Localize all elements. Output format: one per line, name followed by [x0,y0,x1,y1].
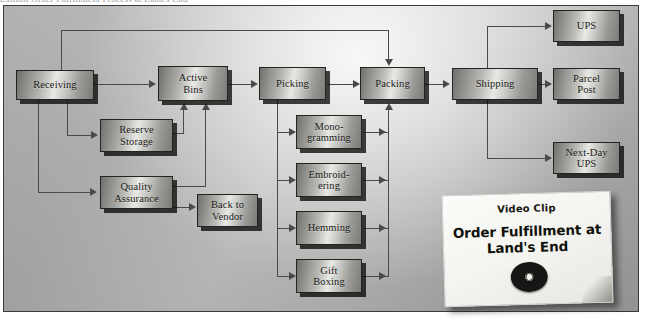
video-clip-title: Order Fulfillment at Land's End [449,221,605,257]
node-active-bins-label-line1: Active [179,72,208,84]
connector-picking-to-embroidering [277,180,289,181]
video-clip-card[interactable]: Video Clip Order Fulfillment at Land's E… [441,191,613,308]
node-packing[interactable]: Packing [360,67,425,100]
node-receiving[interactable]: Receiving [16,70,94,100]
connector-receiving-to-packing-horizontal [61,30,389,31]
node-next-day-ups[interactable]: Next-Day UPS [553,142,620,174]
connector-reserve-storage-to-active-bins-vertical [183,110,184,134]
connector-quality-assurance-to-back-to-vendor [173,207,189,208]
node-shipping-label: Shipping [476,78,515,90]
node-active-bins-label-line2: Bins [183,84,203,96]
arrowhead-embroidering-to-collector [379,176,386,184]
connector-receiving-to-reserve-storage-horizontal [67,135,91,136]
connector-picking-to-hemming [277,228,289,229]
node-next-day-ups-label-line2: UPS [577,158,597,170]
connector-quality-assurance-to-active-bins-vertical [205,110,206,187]
connector-shipping-to-ups [487,26,545,27]
node-monogramming[interactable]: Mono- gramming [296,115,362,149]
node-reserve-storage-label-line1: Reserve [119,124,154,136]
connector-receiving-to-reserve-storage-vertical [67,100,68,135]
connector-picking-to-packing [327,84,353,85]
connector-picking-services-spine [277,100,278,276]
node-back-to-vendor-label-line2: Vendor [212,211,243,223]
connector-services-collector-spine [388,110,389,277]
connector-packing-to-shipping [425,84,443,85]
arrowhead-hemming-to-collector [379,224,386,232]
arrowhead-into-packing-bottom [385,103,393,110]
node-back-to-vendor[interactable]: Back to Vendor [197,194,258,227]
node-hemming-label: Hemming [308,222,351,234]
arrowhead-monogramming-to-collector [379,128,386,136]
connector-receiving-to-active-bins [94,84,149,85]
node-parcel-post-label-line1: Parcel [573,73,600,85]
node-gift-boxing-label-line1: Gift [320,265,337,277]
connector-quality-assurance-to-active-bins-horizontal [173,186,206,187]
node-next-day-ups-label-line1: Next-Day [565,147,607,159]
connector-receiving-to-quality-assurance-vertical [38,100,39,192]
node-monogramming-label-line1: Mono- [314,121,343,133]
node-back-to-vendor-label-line1: Back to [211,199,244,211]
node-reserve-storage-label-line2: Storage [120,136,153,148]
node-active-bins[interactable]: Active Bins [158,66,228,101]
arrowhead-into-next-day-ups [545,154,552,162]
connector-picking-to-monogramming [277,132,289,133]
arrowhead-into-back-to-vendor [189,203,196,211]
arrowhead-into-picking [251,80,258,88]
arrowhead-into-ups [545,22,552,30]
node-shipping[interactable]: Shipping [452,68,538,100]
node-monogramming-label-line2: gramming [307,132,351,144]
connector-shipping-to-next-day-ups [487,158,545,159]
node-gift-boxing-label-line2: Boxing [313,276,345,288]
connector-receiving-to-packing-vertical-right [388,30,389,60]
node-embroidering[interactable]: Embroid- ering [296,163,362,197]
arrowhead-into-parcel-post [545,80,552,88]
arrowhead-into-quality-assurance [90,188,97,196]
connector-shipping-to-parcel-post [538,84,545,85]
arrowhead-into-active-bins-from-reserve-storage [180,103,188,110]
node-quality-assurance-label-line2: Assurance [114,193,159,205]
node-parcel-post-label-line2: Post [577,84,596,96]
arrowhead-into-reserve-storage [91,131,98,139]
arrowhead-gift-boxing-to-collector [379,272,386,280]
node-reserve-storage[interactable]: Reserve Storage [100,119,173,152]
node-gift-boxing[interactable]: Gift Boxing [296,259,362,293]
video-clip-title-line2: Land's End [487,238,569,256]
node-parcel-post[interactable]: Parcel Post [553,68,620,100]
node-picking[interactable]: Picking [259,67,326,100]
arrowhead-into-hemming [289,224,296,232]
arrowhead-into-packing [353,80,360,88]
compact-disc-icon [510,261,548,292]
node-embroidering-label-line2: ering [318,180,340,192]
node-embroidering-label-line1: Embroid- [308,169,349,181]
arrowhead-into-active-bins-from-quality-assurance [202,103,210,110]
video-clip-kicker: Video Clip [443,201,610,217]
arrowhead-into-embroidering [289,176,296,184]
arrowhead-into-shipping [443,80,450,88]
diagram-page: Exhibit Order Fulfillment Process at Lan… [0,0,645,321]
node-quality-assurance-label-line1: Quality [120,181,152,193]
arrowhead-into-active-bins [149,80,156,88]
connector-active-bins-to-picking [229,84,251,85]
node-packing-label: Packing [375,78,410,90]
arrowhead-into-monogramming [289,128,296,136]
node-quality-assurance[interactable]: Quality Assurance [100,176,173,209]
diagram-canvas: Receiving Reserve Storage Quality Assura… [0,0,645,321]
connector-receiving-to-quality-assurance-horizontal [38,192,90,193]
connector-picking-to-gift-boxing [277,276,289,277]
node-hemming[interactable]: Hemming [296,211,362,245]
node-ups[interactable]: UPS [553,10,620,42]
arrowhead-into-packing-top [385,59,393,66]
connector-receiving-to-packing-vertical-left [61,30,62,70]
node-picking-label: Picking [276,78,309,90]
arrowhead-into-gift-boxing [289,272,296,280]
node-receiving-label: Receiving [33,79,76,91]
node-ups-label: UPS [577,20,597,32]
